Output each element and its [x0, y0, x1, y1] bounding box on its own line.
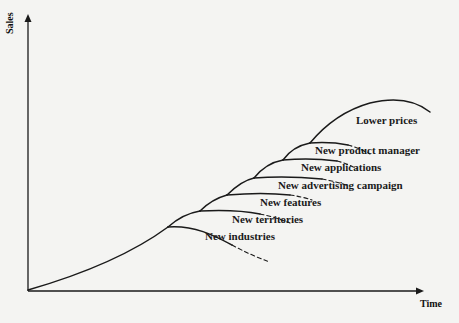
label-new-product-manager: New product manager [315, 144, 420, 156]
branch-new-applications [254, 160, 283, 178]
curve-new-features [227, 194, 290, 196]
branch-new-product-manager [283, 143, 310, 160]
sales-time-diagram [0, 0, 459, 323]
base-growth-curve [28, 227, 168, 290]
y-axis-label: Sales [4, 12, 15, 34]
label-lower-prices: Lower prices [356, 114, 417, 126]
y-axis-arrow-icon [25, 14, 32, 22]
x-axis-arrow-icon [416, 288, 424, 295]
branch-new-territories [168, 211, 200, 227]
branch-new-advertising [227, 178, 254, 195]
curve-new-industries-decline [232, 245, 270, 262]
x-axis-label: Time [420, 298, 442, 309]
label-new-territories: New territories [232, 213, 303, 225]
label-new-features: New features [260, 196, 321, 208]
label-new-applications: New applications [301, 161, 381, 173]
label-new-advertising-campaign: New advertising campaign [278, 179, 403, 191]
branch-new-features [200, 195, 227, 211]
label-new-industries: New industries [205, 230, 275, 242]
